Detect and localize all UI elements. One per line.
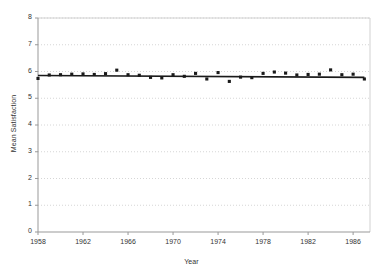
chart-container: Mean Satisfaction Year 012345678 1958196… bbox=[0, 0, 383, 277]
data-point bbox=[160, 76, 163, 79]
data-point bbox=[183, 75, 186, 78]
data-point bbox=[250, 76, 253, 79]
data-point bbox=[307, 73, 310, 76]
gridlines bbox=[38, 18, 370, 205]
data-point bbox=[262, 72, 265, 75]
data-point bbox=[217, 71, 220, 74]
data-point bbox=[149, 76, 152, 79]
data-point bbox=[352, 73, 355, 76]
trend-line-segment bbox=[38, 76, 364, 78]
data-point bbox=[172, 73, 175, 76]
data-point bbox=[48, 73, 51, 76]
data-point bbox=[194, 72, 197, 75]
data-point bbox=[329, 68, 332, 71]
data-point bbox=[93, 73, 96, 76]
data-point bbox=[228, 80, 231, 83]
data-point bbox=[273, 70, 276, 73]
data-point bbox=[81, 72, 84, 75]
data-point bbox=[115, 69, 118, 72]
data-point bbox=[363, 77, 366, 80]
data-point bbox=[138, 74, 141, 77]
data-point bbox=[340, 73, 343, 76]
data-point bbox=[284, 72, 287, 75]
plot-area bbox=[0, 0, 383, 277]
data-point bbox=[59, 73, 62, 76]
data-point bbox=[318, 73, 321, 76]
data-point bbox=[126, 73, 129, 76]
data-point bbox=[205, 77, 208, 80]
trend-line bbox=[38, 76, 364, 78]
data-point bbox=[295, 73, 298, 76]
data-point bbox=[36, 77, 39, 80]
axis-ticks bbox=[35, 18, 353, 235]
data-point bbox=[239, 76, 242, 79]
data-point bbox=[104, 72, 107, 75]
data-point bbox=[70, 73, 73, 76]
